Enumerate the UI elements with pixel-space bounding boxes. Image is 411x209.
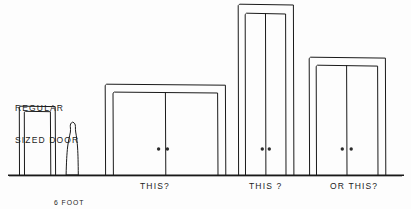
label-door-b: THIS ?	[249, 181, 282, 192]
door-b	[238, 4, 294, 175]
door-comparison-drawing: REGULAR SIZED DOOR 6 FOOT MAN THIS? THIS…	[0, 0, 411, 209]
label-regular-sized-door-line2: SIZED DOOR	[15, 135, 79, 146]
label-six-foot-man: 6 FOOT MAN	[54, 180, 84, 209]
label-door-c: OR THIS?	[330, 181, 378, 192]
label-regular-sized-door: REGULAR SIZED DOOR	[15, 82, 79, 166]
door-handles-a	[157, 147, 169, 150]
label-six-foot-man-line1: 6 FOOT	[54, 198, 84, 207]
label-regular-sized-door-line1: REGULAR	[15, 103, 79, 114]
label-door-a: THIS?	[140, 181, 170, 192]
door-a	[105, 84, 226, 175]
door-c	[309, 57, 386, 175]
door-frame-c	[309, 57, 386, 175]
